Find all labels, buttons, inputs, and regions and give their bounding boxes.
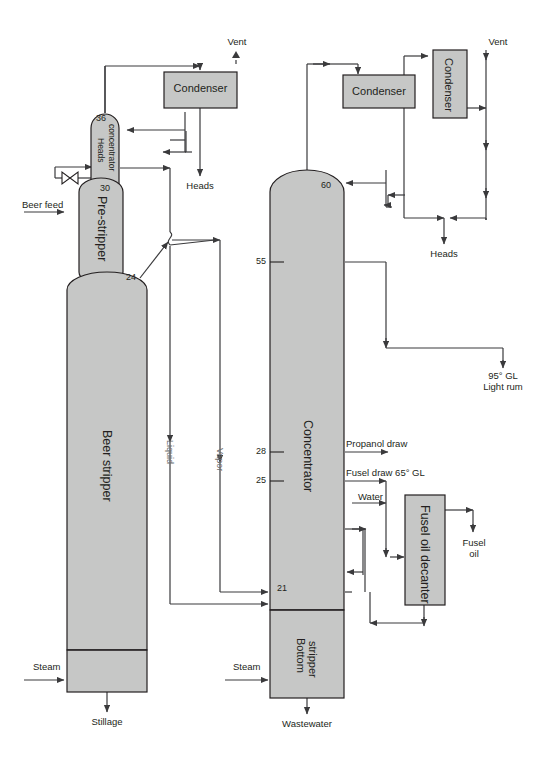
label-bottom-stripper-line2: stripper <box>307 641 319 689</box>
stage-number-30: 30 <box>100 183 110 193</box>
label-steam-left: Steam <box>33 661 60 672</box>
stage-number-55: 55 <box>256 256 266 266</box>
stage-number-21: 21 <box>277 583 287 593</box>
stage-number-25: 25 <box>256 475 266 485</box>
label-heads-concentrator-line1: Heads <box>96 138 106 182</box>
label-condenser-right: Condenser <box>443 55 455 115</box>
label-vapor-stream: Vapor <box>215 448 225 488</box>
process-flow-diagram: Vent Vent Condenser Condenser Condenser … <box>0 0 554 761</box>
line-bs-vapor-to-ps <box>140 242 168 278</box>
label-vent-left: Vent <box>213 36 261 47</box>
label-condenser-left: Condenser <box>164 82 237 94</box>
label-fusel-oil-decanter: Fusel oil decanter <box>418 505 432 599</box>
vent-left-arrow-icon <box>232 51 240 58</box>
label-condenser-mid: Condenser <box>343 85 415 97</box>
line-crossover-jog <box>168 232 171 245</box>
label-wastewater: Wastewater <box>275 718 339 729</box>
label-beer-stripper: Beer stripper <box>100 430 114 520</box>
label-concentrator: Concentrator <box>301 420 315 520</box>
line-crossover-right-stub <box>170 240 215 245</box>
label-bottom-stripper-line1: Bottom <box>295 638 307 688</box>
vessel-beer-stripper-base <box>67 650 147 692</box>
label-liquid-stream: Liquid <box>165 440 175 480</box>
stage-number-36: 36 <box>96 113 106 123</box>
label-water: Water <box>358 491 383 502</box>
label-heads-concentrator-line2: concentrator <box>107 124 117 186</box>
flow-lines-layer <box>0 0 554 761</box>
control-valve-icon <box>62 172 78 184</box>
label-heads-right: Heads <box>420 248 468 259</box>
label-beer-feed: Beer feed <box>22 199 63 210</box>
stage-number-24: 24 <box>126 272 136 282</box>
label-stillage: Stillage <box>83 716 131 727</box>
label-vent-right: Vent <box>474 36 522 47</box>
label-fusel-draw: Fusel draw 65° GL <box>346 467 425 478</box>
stage-number-28: 28 <box>256 446 266 456</box>
label-light-rum: 95° GL Light rum <box>472 370 534 392</box>
stage-number-60: 60 <box>321 180 331 190</box>
label-propanol-draw: Propanol draw <box>346 438 407 449</box>
label-fusel-oil: Fusel oil <box>452 537 496 559</box>
label-pre-stripper: Pre-stripper <box>95 196 109 270</box>
vessel-concentrator <box>270 170 344 610</box>
label-heads-left: Heads <box>176 180 224 191</box>
label-steam-right: Steam <box>233 661 260 672</box>
